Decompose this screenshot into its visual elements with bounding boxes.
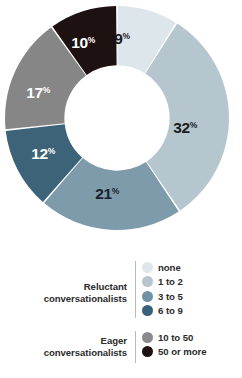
donut-chart-svg: 9%32%21%12%17%10%	[4, 5, 230, 231]
legend-item-label: 10 to 50	[158, 332, 193, 343]
legend-group-label-eager: Eager conversationalists	[0, 330, 135, 358]
legend-swatch-icon	[142, 305, 153, 316]
legend-swatch-icon	[142, 262, 153, 273]
legend-item[interactable]: 10 to 50	[142, 330, 242, 345]
legend-group-label-line: conversationalists	[0, 347, 127, 359]
legend-swatch-icon	[142, 276, 153, 287]
legend-group-reluctant: Reluctant conversationalists none 1 to 2…	[0, 260, 242, 318]
donut-chart-figure: 9%32%21%12%17%10% Reluctant conversation…	[0, 0, 242, 378]
chart-legend: Reluctant conversationalists none 1 to 2…	[0, 250, 242, 378]
legend-divider	[135, 331, 136, 363]
chart-plot-area: 9%32%21%12%17%10%	[0, 0, 242, 242]
legend-item[interactable]: 6 to 9	[142, 304, 242, 319]
legend-swatch-icon	[142, 291, 153, 302]
legend-swatch-icon	[142, 332, 153, 343]
legend-item[interactable]: 3 to 5	[142, 289, 242, 304]
legend-item[interactable]: none	[142, 260, 242, 275]
legend-group-label-line: conversationalists	[0, 293, 127, 305]
legend-group-eager: Eager conversationalists 10 to 50 50 or …	[0, 330, 242, 363]
legend-item-label: 50 or more	[158, 346, 207, 357]
legend-item-label: none	[158, 262, 181, 273]
legend-group-label-line: Eager	[0, 335, 127, 347]
legend-group-label-reluctant: Reluctant conversationalists	[0, 260, 135, 304]
legend-item[interactable]: 1 to 2	[142, 275, 242, 290]
legend-item-label: 1 to 2	[158, 276, 183, 287]
legend-swatch-icon	[142, 346, 153, 357]
legend-group-label-line: Reluctant	[0, 281, 127, 293]
legend-item[interactable]: 50 or more	[142, 345, 242, 360]
legend-items-eager: 10 to 50 50 or more	[142, 330, 242, 359]
legend-divider	[135, 261, 136, 318]
legend-item-label: 3 to 5	[158, 291, 183, 302]
legend-items-reluctant: none 1 to 2 3 to 5 6 to 9	[142, 260, 242, 318]
legend-item-label: 6 to 9	[158, 305, 183, 316]
